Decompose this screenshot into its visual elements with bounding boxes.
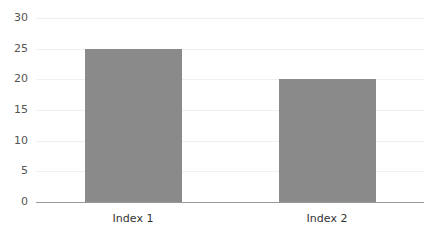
y-tick-label: 10 — [0, 135, 28, 147]
bar-chart: 051015202530 Index 1Index 2 — [0, 0, 439, 236]
x-tick-label: Index 1 — [73, 212, 193, 225]
x-axis-line — [36, 202, 424, 203]
y-tick-label: 25 — [0, 43, 28, 55]
bar — [279, 79, 376, 202]
gridline — [36, 18, 424, 19]
x-tick-label: Index 2 — [267, 212, 387, 225]
y-tick-label: 30 — [0, 12, 28, 24]
y-tick-label: 20 — [0, 73, 28, 85]
y-tick-label: 15 — [0, 104, 28, 116]
y-tick-label: 5 — [0, 165, 28, 177]
bar — [85, 49, 182, 202]
y-tick-label: 0 — [0, 196, 28, 208]
